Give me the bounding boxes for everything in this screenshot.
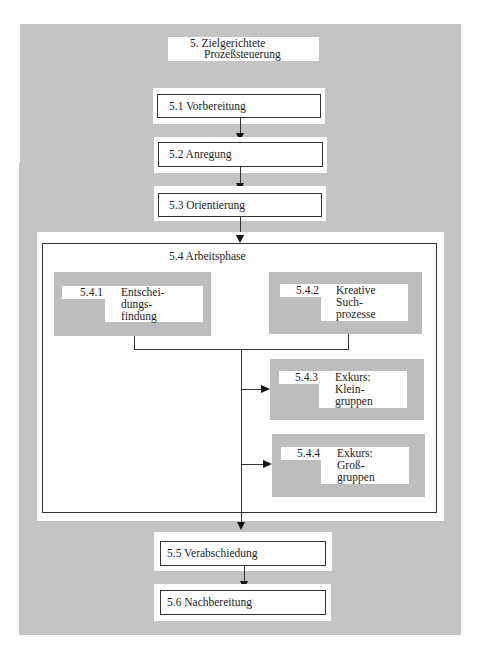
substep-5-4-4-number: 5.4.4 (297, 447, 320, 460)
substep-5-4-2-line-3: prozesse (336, 308, 376, 321)
substep-5-4-3-number: 5.4.3 (295, 371, 318, 384)
step-5-6-label: 5.6 Nachbereitung (167, 596, 252, 609)
substep-5-4-1: 5.4.1 Entschei- dungs- findung (54, 272, 211, 336)
substep-5-4-1-line-3: findung (121, 310, 157, 323)
step-5-3: 5.3 Orientierung (158, 193, 322, 217)
substep-5-4-3-line-3: gruppen (335, 395, 373, 408)
step-5-2: 5.2 Anregung (158, 142, 323, 167)
step-5-6: 5.6 Nachbereitung (160, 590, 326, 615)
connector-5-1-5-2 (240, 118, 241, 134)
step-5-1-label: 5.1 Vorbereitung (169, 100, 246, 113)
substep-5-4-2: 5.4.2 Kreative Such- prozesse (269, 272, 422, 334)
step-5-5-label: 5.5 Verabschiedung (167, 547, 258, 560)
substep-5-4-4: 5.4.4 Exkurs: Groß- gruppen (272, 434, 425, 497)
connector-5-4-1-down (134, 336, 135, 350)
arrow-down-icon (237, 522, 245, 530)
step-5-2-label: 5.2 Anregung (169, 148, 232, 161)
step-5-3-label: 5.3 Orientierung (169, 199, 245, 212)
title-box: 5. Zielgerichtete Prozeßsteuerung (168, 37, 319, 61)
connector-main-vertical (241, 349, 242, 524)
arrow-right-icon (261, 385, 270, 393)
connector-5-2-5-3 (240, 167, 241, 184)
connector-5-5-5-6 (244, 566, 245, 582)
step-5-5: 5.5 Verabschiedung (160, 541, 326, 566)
connector-to-5-4-3 (241, 389, 262, 390)
substep-5-4-4-line-3: gruppen (337, 471, 375, 484)
substep-5-4-1-number: 5.4.1 (80, 286, 103, 299)
substep-5-4-3: 5.4.3 Exkurs: Klein- gruppen (270, 359, 424, 420)
step-5-1: 5.1 Vorbereitung (157, 94, 321, 118)
connector-to-5-4-4 (241, 464, 264, 465)
step-5-4-label: 5.4 Arbeitsphase (169, 250, 246, 263)
connector-5-4-2-down (348, 334, 349, 350)
title-line-2: Prozeßsteuerung (204, 48, 281, 61)
arrow-right-icon (263, 460, 272, 468)
arrow-down-icon (236, 235, 244, 243)
substep-5-4-2-number: 5.4.2 (296, 284, 319, 297)
